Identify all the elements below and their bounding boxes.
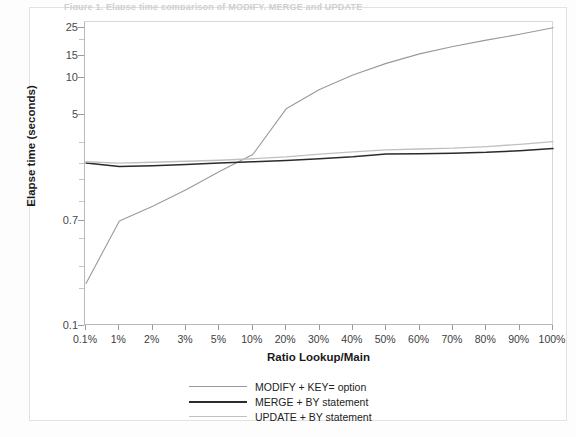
x-tick-mark: [485, 325, 486, 330]
x-tick-mark: [85, 325, 86, 330]
figure-caption-clipped: Figure 1. Elapse time comparison of MODI…: [64, 2, 564, 10]
x-tick-mark: [452, 325, 453, 330]
series-canvas: [85, 22, 554, 326]
x-tick-label: 5%: [211, 333, 226, 345]
chart-legend: MODIFY + KEY= optionMERGE + BY statement…: [189, 379, 429, 424]
figure-root: Figure 1. Elapse time comparison of MODI…: [0, 0, 576, 437]
x-tick-label: 20%: [275, 333, 296, 345]
y-tick-mark: [78, 325, 84, 326]
x-tick-mark: [385, 325, 386, 330]
x-tick-mark: [152, 325, 153, 330]
x-tick-label: 90%: [508, 333, 529, 345]
legend-line-swatch: [189, 386, 247, 387]
x-tick-mark: [419, 325, 420, 330]
legend-line-swatch: [189, 416, 247, 417]
x-tick-label: 3%: [177, 333, 192, 345]
y-axis-title: Elapse time (seconds): [25, 51, 37, 241]
x-tick-label: 1%: [111, 333, 126, 345]
x-tick-mark: [252, 325, 253, 330]
legend-label: UPDATE + BY statement: [255, 411, 372, 423]
x-tick-mark: [118, 325, 119, 330]
x-axis-title: Ratio Lookup/Main: [84, 351, 553, 363]
legend-label: MERGE + BY statement: [255, 396, 368, 408]
x-tick-mark: [285, 325, 286, 330]
plot-area: [84, 21, 553, 325]
x-tick-label: 10%: [241, 333, 262, 345]
legend-item: MODIFY + KEY= option: [189, 379, 429, 394]
x-tick-label: 100%: [539, 333, 566, 345]
legend-line-swatch: [189, 401, 247, 403]
x-tick-label: 50%: [375, 333, 396, 345]
y-axis-tick-labels: 25151050.70.1: [40, 21, 78, 325]
x-tick-mark: [352, 325, 353, 330]
x-tick-mark: [185, 325, 186, 330]
x-tick-mark: [319, 325, 320, 330]
series-line: [86, 149, 553, 167]
legend-label: MODIFY + KEY= option: [255, 381, 366, 393]
x-tick-mark: [552, 325, 553, 330]
series-line: [86, 28, 553, 284]
x-tick-label: 30%: [308, 333, 329, 345]
x-tick-label: 80%: [475, 333, 496, 345]
y-tick-label: 15: [66, 49, 78, 61]
y-tick-label: 0.1: [63, 319, 78, 331]
x-tick-label: 2%: [144, 333, 159, 345]
y-tick-label: 10: [66, 71, 78, 83]
x-tick-mark: [519, 325, 520, 330]
legend-item: UPDATE + BY statement: [189, 409, 429, 424]
x-tick-label: 40%: [341, 333, 362, 345]
x-tick-mark: [218, 325, 219, 330]
y-tick-label: 25: [66, 21, 78, 33]
legend-item: MERGE + BY statement: [189, 394, 429, 409]
x-tick-label: 60%: [408, 333, 429, 345]
y-tick-label: 0.7: [63, 214, 78, 226]
x-tick-label: 0.1%: [73, 333, 97, 345]
x-tick-label: 70%: [441, 333, 462, 345]
